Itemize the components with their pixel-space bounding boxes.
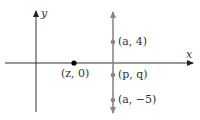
point-label-p-q: (p, q) (118, 69, 148, 81)
point-label-z-0: (z, 0) (61, 68, 89, 80)
point-label-a-4: (a, 4) (118, 36, 147, 48)
y-axis-label: y (41, 8, 47, 20)
point-label-a-minus-5: (a, −5) (118, 94, 156, 106)
x-axis-label: x (186, 49, 192, 61)
point-a-4 (111, 40, 116, 45)
point-p-q (111, 73, 116, 78)
point-a-minus-5 (111, 98, 116, 103)
point-z-0 (71, 60, 76, 65)
diagram-graphics (0, 0, 200, 120)
coordinate-plane-diagram: y x (z, 0) (a, 4) (p, q) (a, −5) (0, 0, 200, 120)
